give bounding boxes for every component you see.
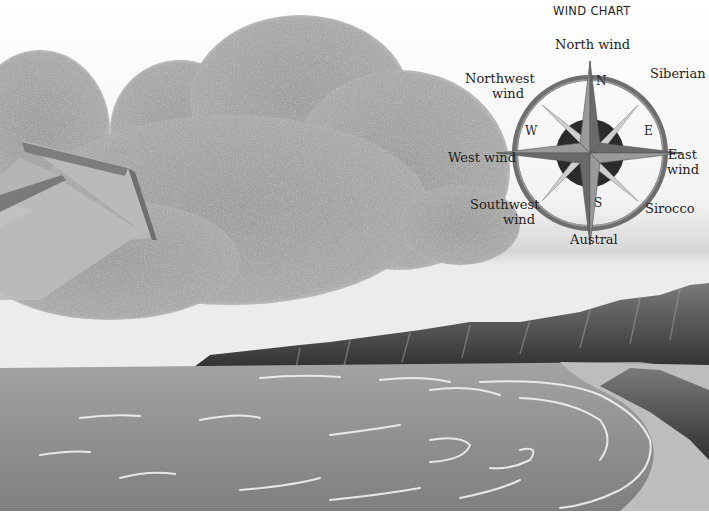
label-southwest-line1: Southwest (470, 197, 535, 212)
label-southwest-line2: wind (470, 212, 535, 227)
label-northwest-line1: Northwest (465, 71, 524, 86)
cardinal-w: W (525, 124, 537, 138)
label-southwest-wind: Southwest wind (470, 197, 535, 227)
label-east-wind: East wind (667, 147, 697, 177)
cardinal-e: E (644, 124, 653, 138)
label-northwest-wind: Northwest wind (465, 71, 524, 101)
label-north-wind: North wind (555, 37, 630, 52)
label-northwest-line2: wind (465, 86, 524, 101)
label-east-line2: wind (667, 162, 697, 177)
cardinal-n: N (596, 74, 607, 88)
cardinal-s: S (594, 196, 602, 210)
label-east-line1: East (667, 147, 697, 162)
chart-title: WIND CHART (553, 4, 631, 18)
label-siberian: Siberian (650, 66, 706, 81)
label-sirocco: Sirocco (645, 201, 695, 216)
label-austral: Austral (570, 232, 618, 247)
label-west-wind: West wind (448, 150, 516, 165)
